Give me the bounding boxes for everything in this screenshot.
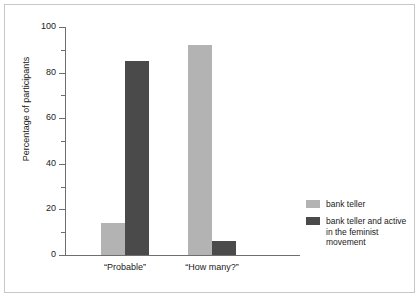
x-axis-label: “How many?” bbox=[162, 262, 262, 272]
legend-item: bank teller bbox=[306, 199, 414, 209]
bar-chart-figure: Percentage of participants 020406080100 … bbox=[0, 0, 419, 297]
plot-area bbox=[66, 27, 300, 255]
y-tick-minor bbox=[61, 95, 65, 96]
x-axis-line bbox=[65, 255, 300, 256]
y-tick-major bbox=[59, 27, 65, 28]
y-tick-major bbox=[59, 255, 65, 256]
y-tick-minor bbox=[61, 50, 65, 51]
x-axis-label: “Probable” bbox=[75, 262, 175, 272]
y-tick-minor bbox=[61, 141, 65, 142]
y-tick-major bbox=[59, 118, 65, 119]
y-tick-major bbox=[59, 164, 65, 165]
y-tick-label: 80 bbox=[20, 67, 56, 77]
y-tick-major bbox=[59, 209, 65, 210]
legend-swatch-icon bbox=[306, 200, 320, 208]
y-tick-minor bbox=[61, 232, 65, 233]
bar bbox=[212, 241, 236, 255]
y-tick-label: 40 bbox=[20, 158, 56, 168]
bar bbox=[125, 61, 149, 255]
y-tick-minor bbox=[61, 187, 65, 188]
y-tick-label: 100 bbox=[20, 21, 56, 31]
legend-item: bank teller and active in the feminist m… bbox=[306, 216, 414, 247]
legend-label: bank teller bbox=[326, 199, 365, 209]
chart-legend: bank tellerbank teller and active in the… bbox=[306, 199, 414, 254]
legend-label: bank teller and active in the feminist m… bbox=[326, 216, 414, 247]
bar bbox=[101, 223, 125, 255]
bar bbox=[188, 45, 212, 255]
y-tick-label: 0 bbox=[20, 249, 56, 259]
y-tick-label: 60 bbox=[20, 112, 56, 122]
y-tick-label: 20 bbox=[20, 203, 56, 213]
y-tick-major bbox=[59, 73, 65, 74]
legend-swatch-icon bbox=[306, 217, 320, 225]
